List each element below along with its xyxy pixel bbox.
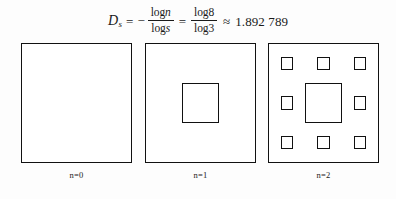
- variable-n: n: [165, 6, 171, 18]
- log-text-denominator-1: log: [151, 22, 165, 34]
- dimension-value: 1.892 789: [235, 15, 288, 28]
- variable-s: s: [166, 22, 170, 34]
- formula-lhs-symbol: D: [108, 14, 118, 28]
- figure-iteration-0: n=0: [21, 43, 134, 163]
- carpet-hole-small: [317, 136, 329, 149]
- fraction-bar-1: [148, 20, 174, 21]
- carpet-square-n2: [268, 43, 379, 163]
- formula-fraction-log8-log3: log8 log3: [191, 6, 217, 35]
- log-text-numerator-1: log: [151, 6, 165, 18]
- fraction-denominator-2: log3: [193, 22, 215, 35]
- formula-lhs: Ds: [108, 14, 122, 28]
- approximately-equal-sign: ≈: [223, 15, 230, 28]
- sierpinski-carpet-figures: n=0 n=1 n=2: [0, 43, 396, 188]
- carpet-square-n1: [145, 43, 256, 163]
- carpet-hole-small: [317, 57, 329, 70]
- figure-iteration-1: n=1: [145, 43, 258, 163]
- formula-minus-sign: −: [137, 14, 144, 27]
- figure-iteration-2: n=2: [268, 43, 381, 163]
- carpet-hole-small: [354, 96, 366, 109]
- carpet-hole-center: [182, 83, 218, 122]
- carpet-hole-small: [354, 136, 366, 149]
- formula-fraction-logn-logs: logn logs: [148, 6, 174, 35]
- carpet-hole-center: [305, 83, 341, 122]
- figure-label-n2: n=2: [268, 170, 379, 180]
- fraction-denominator-1: logs: [150, 22, 171, 35]
- carpet-hole-small: [281, 96, 293, 109]
- formula-lhs-subscript: s: [119, 20, 123, 29]
- carpet-hole-small: [281, 57, 293, 70]
- carpet-square-n0: [21, 43, 132, 163]
- carpet-hole-small: [281, 136, 293, 149]
- fraction-numerator-2: log8: [193, 6, 215, 19]
- figure-label-n0: n=0: [21, 170, 132, 180]
- figure-label-n1: n=1: [145, 170, 256, 180]
- formula-equals-2: =: [179, 15, 186, 28]
- fraction-bar-2: [191, 20, 217, 21]
- fraction-numerator-1: logn: [150, 6, 172, 19]
- carpet-hole-small: [354, 57, 366, 70]
- formula-equals-1: =: [126, 15, 133, 28]
- dimension-formula: Ds = − logn logs = log8 log3 ≈ 1.892 789: [0, 6, 396, 36]
